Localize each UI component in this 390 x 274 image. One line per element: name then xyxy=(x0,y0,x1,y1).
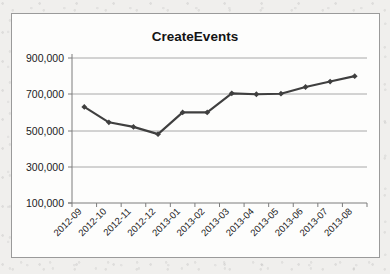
y-axis-ticks xyxy=(68,58,72,203)
data-point-2012-11 xyxy=(131,124,137,130)
data-point-2013-05 xyxy=(278,91,284,97)
x-axis-tick-labels: 2012-092012-102012-112012-122013-012013-… xyxy=(51,206,354,238)
data-point-2013-08 xyxy=(352,73,358,79)
y-tick-label-900000: 900,000 xyxy=(26,52,64,64)
chart-frame: CreateEvents 900,000 700,000 500,000 300… xyxy=(11,13,380,258)
y-axis-tick-labels: 900,000 700,000 500,000 300,000 100,000 xyxy=(26,52,64,209)
data-point-2013-06 xyxy=(303,84,309,90)
gridlines xyxy=(72,58,367,167)
data-point-markers xyxy=(81,73,357,137)
data-point-2013-07 xyxy=(327,79,333,85)
create-events-line-chart: CreateEvents 900,000 700,000 500,000 300… xyxy=(12,14,379,257)
data-series-line xyxy=(84,76,354,134)
x-axis-ticks xyxy=(72,203,367,207)
chart-title: CreateEvents xyxy=(152,29,238,44)
y-tick-label-100000: 100,000 xyxy=(26,197,64,209)
y-tick-label-500000: 500,000 xyxy=(26,125,64,137)
y-tick-label-700000: 700,000 xyxy=(26,88,64,100)
data-point-2013-04 xyxy=(253,91,259,97)
y-tick-label-300000: 300,000 xyxy=(26,161,64,173)
